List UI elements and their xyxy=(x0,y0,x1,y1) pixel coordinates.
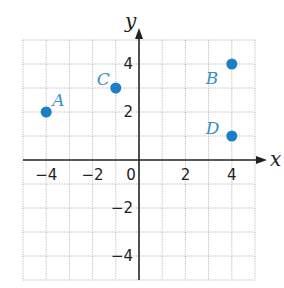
x-axis-label: x xyxy=(270,147,281,171)
point-marker-icon xyxy=(41,107,52,118)
point-marker-icon xyxy=(226,131,237,142)
point-d: D xyxy=(205,118,238,142)
point-label: C xyxy=(97,69,110,89)
point-label: A xyxy=(50,90,64,110)
x-tick-label: −4 xyxy=(35,166,57,184)
x-tick-label: −2 xyxy=(82,166,104,184)
y-tick-label: −2 xyxy=(111,199,133,217)
x-axis-arrow-icon xyxy=(256,156,267,164)
point-label: B xyxy=(205,68,219,88)
x-tick-label: 0 xyxy=(126,166,136,184)
point-marker-icon xyxy=(110,83,121,94)
x-tick-label: 2 xyxy=(181,166,191,184)
x-tick-label: 4 xyxy=(227,166,237,184)
y-tick-label: −4 xyxy=(111,247,133,265)
y-axis-label: y xyxy=(124,9,137,33)
y-tick-label: 2 xyxy=(123,103,133,121)
y-tick-label: 4 xyxy=(123,55,133,73)
point-c: C xyxy=(97,69,122,94)
point-b: B xyxy=(205,59,238,89)
point-label: D xyxy=(205,118,220,138)
point-marker-icon xyxy=(226,59,237,70)
point-a: A xyxy=(41,90,65,118)
coordinate-plane: −4−202442−2−4 ABCD x y xyxy=(0,0,284,288)
